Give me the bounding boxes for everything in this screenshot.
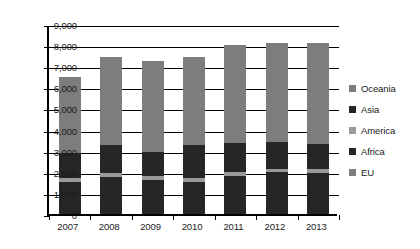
bar-segment-africa (142, 176, 164, 180)
gridline (49, 26, 339, 27)
gridline (49, 47, 339, 48)
x-axis-tick-label: 2007 (45, 222, 91, 232)
y-axis-tick-label: 5,000 (31, 105, 77, 115)
x-tick-mark (298, 215, 299, 220)
legend-swatch-icon (349, 148, 356, 155)
bar-segment-oceania (224, 45, 246, 143)
bar-segment-oceania (266, 43, 288, 143)
x-axis-tick-label: 2011 (210, 222, 256, 232)
chart-legend: OceaniaAsiaAmericaAfricaEU (349, 78, 419, 183)
bar-segment-eu (307, 173, 329, 214)
y-axis-tick-label: 9,000 (31, 21, 77, 31)
y-axis-tick-label: 6,000 (31, 84, 77, 94)
y-axis-tick-label: 3,000 (31, 148, 77, 158)
legend-item-america[interactable]: America (349, 120, 419, 141)
legend-item-oceania[interactable]: Oceania (349, 78, 419, 99)
legend-swatch-icon (349, 169, 356, 176)
stacked-bar-chart: 9,0008,0007,0006,0005,0004,0003,0002,000… (0, 0, 420, 249)
y-axis-tick-label: 4,000 (31, 127, 77, 137)
bar-segment-africa (224, 172, 246, 176)
bar-segment-oceania (307, 43, 329, 145)
x-axis-tick-label: 2013 (293, 222, 339, 232)
legend-swatch-icon (349, 106, 356, 113)
bar-segment-eu (142, 180, 164, 214)
bar-segment-america (266, 142, 288, 168)
bar-segment-eu (266, 172, 288, 214)
bar-segment-america (224, 143, 246, 172)
legend-label: Oceania (361, 84, 396, 94)
x-tick-mark (215, 215, 216, 220)
bar-segment-africa (183, 178, 205, 182)
legend-item-eu[interactable]: EU (349, 162, 419, 183)
x-axis-tick-label: 2012 (252, 222, 298, 232)
plot-area (47, 26, 337, 216)
bar-segment-oceania (100, 57, 122, 146)
y-axis-tick-label: 7,000 (31, 63, 77, 73)
y-axis-tick-label: 8,000 (31, 42, 77, 52)
bar-segment-africa (100, 173, 122, 177)
legend-label: America (361, 126, 395, 136)
bar-segment-america (100, 145, 122, 172)
bar-segment-oceania (142, 61, 164, 152)
legend-item-asia[interactable]: Asia (349, 99, 419, 120)
legend-label: Africa (361, 147, 385, 157)
legend-swatch-icon (349, 85, 356, 92)
y-axis-tick-label: 1,000 (31, 190, 77, 200)
y-axis-tick-label: 2,000 (31, 169, 77, 179)
x-tick-mark (339, 215, 340, 220)
bar-segment-eu (224, 176, 246, 214)
x-axis-tick-label: 2009 (128, 222, 174, 232)
bar-segment-eu (100, 177, 122, 214)
legend-item-africa[interactable]: Africa (349, 141, 419, 162)
x-axis-tick-label: 2010 (169, 222, 215, 232)
bar-segment-africa (266, 169, 288, 172)
legend-label: EU (361, 168, 374, 178)
bar-segment-africa (307, 169, 329, 173)
y-axis-tick-label: 0 (31, 211, 77, 221)
x-tick-mark (256, 215, 257, 220)
bar-segment-eu (183, 182, 205, 214)
x-tick-mark (90, 215, 91, 220)
bar-segment-america (307, 144, 329, 168)
x-tick-mark (173, 215, 174, 220)
bar-segment-america (183, 145, 205, 178)
bar-segment-oceania (183, 57, 205, 145)
x-tick-mark (132, 215, 133, 220)
legend-swatch-icon (349, 127, 356, 134)
legend-label: Asia (361, 105, 379, 115)
x-axis-tick-label: 2008 (86, 222, 132, 232)
bar-segment-america (142, 152, 164, 176)
